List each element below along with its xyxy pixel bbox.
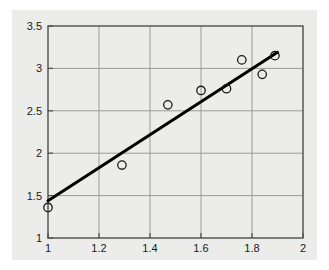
fit-line-path: [48, 52, 278, 200]
x-axis-tick-labels: 11.21.41.61.82: [45, 242, 306, 254]
y-tick-label: 3.5: [27, 20, 42, 32]
x-tick-label: 1.8: [244, 242, 259, 254]
y-tick-label: 2: [36, 147, 42, 159]
y-tick-label: 1.5: [27, 190, 42, 202]
axis-ticks: [48, 26, 303, 238]
data-point-marker: [118, 161, 126, 169]
x-tick-label: 1.4: [142, 242, 157, 254]
plot-border: [48, 26, 303, 238]
regression-line: [48, 52, 278, 200]
y-tick-label: 3: [36, 62, 42, 74]
y-axis-tick-labels: 11.522.533.5: [27, 20, 42, 244]
data-point-marker: [238, 56, 246, 64]
axis-frame: [48, 26, 303, 238]
x-tick-label: 2: [300, 242, 306, 254]
scatter-plot-with-regression-line: 11.21.41.61.82 11.522.533.5: [0, 0, 329, 270]
data-point-marker: [258, 70, 266, 78]
x-tick-label: 1.6: [193, 242, 208, 254]
x-tick-label: 1.2: [91, 242, 106, 254]
y-tick-label: 2.5: [27, 105, 42, 117]
chart-figure: 11.21.41.61.82 11.522.533.5: [0, 0, 329, 270]
y-tick-label: 1: [36, 232, 42, 244]
data-point-marker: [164, 101, 172, 109]
x-tick-label: 1: [45, 242, 51, 254]
grid-lines: [48, 26, 303, 238]
